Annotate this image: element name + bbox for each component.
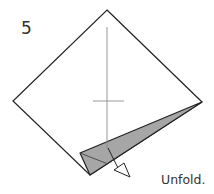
origami-diagram [0,0,214,194]
instruction-caption: Unfold. [161,172,206,187]
